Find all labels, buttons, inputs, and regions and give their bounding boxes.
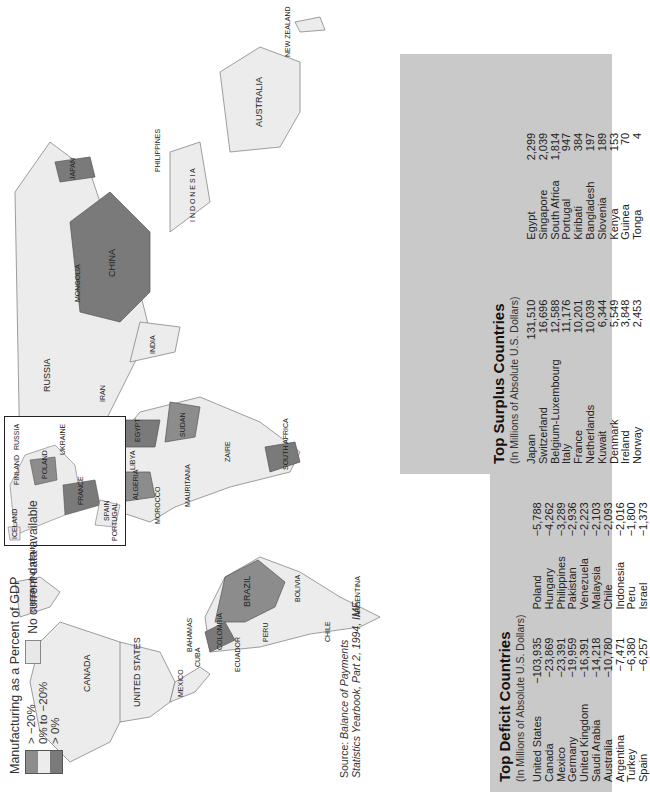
label-chile: CHILE [324,621,331,642]
surplus-value: 2,453 [632,300,644,340]
inset-label-spain: SPAIN [103,501,110,522]
label-canada: CANADA [82,654,92,692]
inset-label-portugal: PORTUGAL [111,503,118,541]
country-name: Spain [638,704,650,782]
label-australia: AUSTRALIA [254,77,264,127]
label-mexico: MEXICO [177,669,184,697]
legend-swatch-above-0 [50,751,62,773]
deficit-value-col-1: −103,935 −23,869 −23,391 −19,959 −16,391… [532,638,650,684]
surplus-content: Top Surplus Countries (In Millions of Ab… [490,64,644,464]
source-citation: Source: Balance of Payments Statistics Y… [338,600,362,778]
inset-label-france: FRANCE [77,476,84,505]
surplus-country-col-1: Japan Switzerland Belgium-Luxembourg Ita… [526,359,644,464]
source-line1: Balance of Payments [338,640,350,739]
label-sudan: SUDAN [179,412,186,437]
country-name: Israel [638,556,650,609]
surplus-table: Japan Switzerland Belgium-Luxembourg Ita… [526,64,644,464]
label-bahamas: BAHAMAS [186,617,193,652]
deficit-value: −10,780 [603,638,615,684]
legend-no-data-label: No current data available [26,500,40,633]
label-mongolia: MONGOLIA [74,264,81,302]
surplus-value: 6,344 [597,300,609,340]
surplus-value: 2,039 [538,133,550,161]
legend-swatch-no-data [25,640,41,664]
legend-label: > −20% [25,682,37,744]
deficit-subtitle: (In Millions of Absolute U.S. Dollars) [514,472,526,782]
country-name: Switzerland [538,359,550,464]
deficit-country-col-1: United States Canada Mexico Germany Unit… [532,704,650,782]
deficit-table: United States Canada Mexico Germany Unit… [532,472,650,782]
deficit-value: −1,373 [638,502,650,536]
country-name: Chile [603,556,615,609]
legend-swatch-0-to-minus20 [38,751,50,773]
label-united-states: UNITED STATES [132,637,142,707]
legend-scale: > −20% 0% to −20% > 0% No current data a… [25,434,63,774]
label-iran: IRAN [99,385,106,402]
surplus-value: 4 [632,133,644,161]
surplus-subtitle: (In Millions of Absolute U.S. Dollars) [508,64,520,464]
country-name: Slovenia [597,180,609,239]
country-name: Netherlands [585,359,597,464]
surplus-value-col-2: 2,299 2,039 1,814 947 384 197 189 153 70… [526,133,644,161]
label-brazil: BRAZIL [242,575,252,607]
surplus-country-col-2: Egypt Singapore South Africa Portugal Ki… [526,180,644,239]
country-name: Norway [632,359,644,464]
country-name: Singapore [538,180,550,239]
surplus-value-col-1: 131,510 16,696 12,588 11,176 10,201 10,0… [526,300,644,340]
top-surplus-panel: Top Surplus Countries (In Millions of Ab… [400,54,612,474]
label-cuba: CUBA [194,647,201,667]
legend-swatches [25,750,63,774]
surplus-title: Top Surplus Countries [490,64,507,464]
deficit-value: −4,262 [544,502,556,536]
label-zaire: ZAIRE [224,441,231,462]
label-bolivia: BOLIVIA [294,574,301,602]
label-philippines: PHILIPPINES [154,128,161,172]
label-indonesia: I N D O N E S I A [189,168,196,222]
legend-swatch-below-minus20 [26,751,38,773]
surplus-value: 197 [585,133,597,161]
surplus-value: 189 [597,133,609,161]
country-name: Kuwait [597,359,609,464]
deficit-value: −2,093 [603,502,615,536]
legend-label: > 0% [49,682,61,744]
label-mauritania: MAURITANIA [184,464,191,507]
label-algeria: ALGERIA [132,469,139,500]
country-name: Canada [544,704,556,782]
surplus-value: 10,039 [585,300,597,340]
label-china: CHINA [107,249,117,277]
deficit-value: −6,257 [638,638,650,684]
legend-labels: > −20% 0% to −20% > 0% [25,682,61,744]
label-egypt: EGYPT [134,418,141,442]
surplus-value: 16,696 [538,300,550,340]
label-morocco: MOROCCO [154,486,161,524]
map-legend: Manufacturing as a Percent of GDP > −20%… [8,434,63,774]
label-russia: RUSSIA [42,358,52,392]
legend-label: 0% to −20% [37,682,49,744]
country-name: Saudi Arabia [591,704,603,782]
deficit-value: −14,218 [591,638,603,684]
country-name: Hungary [544,556,556,609]
label-peru: PERU [262,623,269,642]
legend-title: Manufacturing as a Percent of GDP [8,434,22,774]
deficit-value: −23,869 [544,638,556,684]
label-india: INDIA [149,335,156,354]
top-deficit-panel: Top Deficit Countries (In Millions of Ab… [490,462,612,792]
deficit-title: Top Deficit Countries [496,472,513,782]
label-new-zealand: NEW ZEALAND [284,6,291,57]
source-prefix: Source: [338,739,350,778]
label-ecuador: ECUADOR [234,637,241,672]
country-name: Bangladesh [585,180,597,239]
label-south-africa: SOUTH AFRICA [282,418,289,470]
legend-no-data: No current data available [25,500,41,663]
country-name: Australia [603,704,615,782]
deficit-value: −2,103 [591,502,603,536]
deficit-country-col-2: Poland Hungary Philippines Pakistan Vene… [532,556,650,609]
country-name: Malaysia [591,556,603,609]
label-libya: LIBYA [129,450,136,470]
label-colombia: COLOMBIA [216,613,223,650]
label-japan: JAPAN [69,158,76,180]
country-name: Tonga [632,180,644,239]
deficit-value-col-2: −5,788 −4,262 −3,289 −2,936 −2,223 −2,10… [532,502,650,536]
source-line2: Statistics Yearbook, Part 2, 1994, IMF. [350,600,362,778]
